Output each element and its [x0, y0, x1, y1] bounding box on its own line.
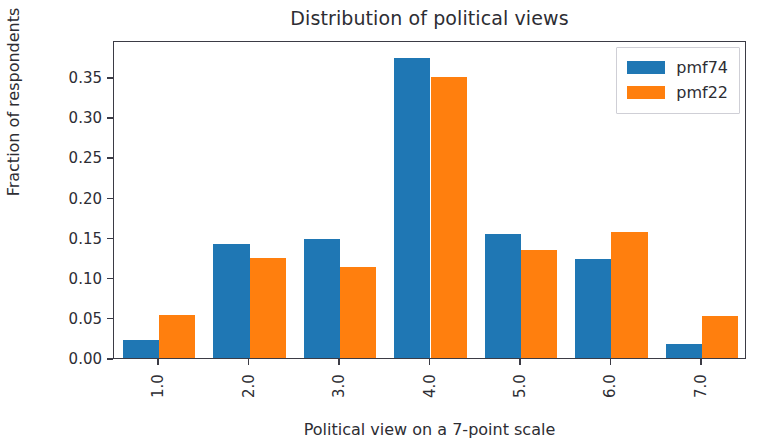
bar-pmf74-3.0	[304, 239, 340, 358]
legend-swatch-icon	[627, 61, 665, 74]
legend-swatch-icon	[627, 86, 665, 99]
bar-pmf74-2.0	[213, 244, 249, 358]
y-tick-label: 0.05	[32, 309, 102, 329]
legend-item-pmf74[interactable]: pmf74	[627, 55, 728, 80]
bar-pmf22-5.0	[521, 250, 557, 358]
bar-pmf22-2.0	[250, 258, 286, 358]
y-tick-label: 0.35	[32, 68, 102, 88]
y-tick-label: 0.10	[32, 269, 102, 289]
x-tick-label: 2.0	[240, 356, 258, 416]
chart-legend: pmf74pmf22	[616, 47, 740, 114]
bar-pmf22-3.0	[340, 267, 376, 358]
bar-pmf22-4.0	[431, 77, 467, 358]
bar-pmf22-1.0	[159, 315, 195, 358]
x-tick-label: 3.0	[330, 356, 348, 416]
y-axis-label: Fraction of respondents	[4, 0, 24, 222]
y-tick-label: 0.00	[32, 349, 102, 369]
bar-pmf74-7.0	[666, 344, 702, 358]
bar-pmf74-1.0	[123, 340, 159, 358]
x-tick-label: 1.0	[149, 356, 167, 416]
y-tick-label: 0.25	[32, 148, 102, 168]
bar-pmf74-4.0	[394, 58, 430, 358]
x-tick-label: 7.0	[692, 356, 710, 416]
x-tick-label: 6.0	[601, 356, 619, 416]
legend-label: pmf22	[676, 84, 728, 102]
chart-title: Distribution of political views	[113, 6, 746, 30]
legend-label: pmf74	[676, 59, 728, 77]
bar-pmf22-7.0	[702, 316, 738, 358]
y-tick-label: 0.20	[32, 189, 102, 209]
x-axis-label: Political view on a 7-point scale	[113, 420, 746, 440]
bar-pmf74-5.0	[485, 234, 521, 358]
bar-pmf22-6.0	[611, 232, 647, 358]
y-tick-label: 0.30	[32, 108, 102, 128]
y-tick-label: 0.15	[32, 229, 102, 249]
legend-item-pmf22[interactable]: pmf22	[627, 80, 728, 105]
x-tick-label: 4.0	[421, 356, 439, 416]
chart-figure: Distribution of political views Fraction…	[0, 0, 782, 447]
plot-area: pmf74pmf22	[113, 41, 746, 359]
bar-pmf74-6.0	[575, 259, 611, 359]
x-tick-label: 5.0	[511, 356, 529, 416]
